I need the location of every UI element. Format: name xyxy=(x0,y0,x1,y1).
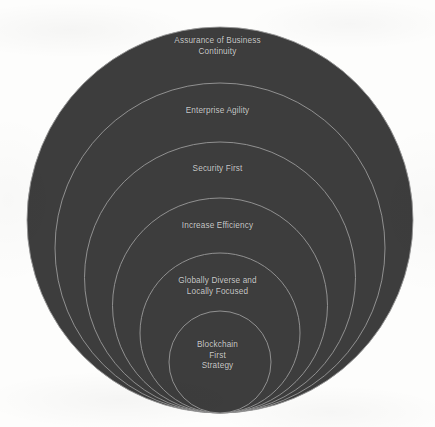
ring-label-line: Increase Efficiency xyxy=(0,221,435,232)
ring-label-increase-efficiency: Increase Efficiency xyxy=(0,221,435,232)
ring-label-enterprise-agility: Enterprise Agility xyxy=(0,106,435,117)
ring-label-line: Locally Focused xyxy=(0,287,435,298)
ring-label-globally-diverse-and-locally-focused: Globally Diverse andLocally Focused xyxy=(0,276,435,297)
ring-label-assurance-of-business-continuity: Assurance of BusinessContinuity xyxy=(0,36,435,57)
ring-label-line: Globally Diverse and xyxy=(0,276,435,287)
ring-label-blockchain-first-strategy: BlockchainFirstStrategy xyxy=(0,340,435,372)
ring-label-line: Strategy xyxy=(0,361,435,372)
ring-label-line: Blockchain xyxy=(0,340,435,351)
ring-label-line: Security First xyxy=(0,164,435,175)
ring-label-line: Continuity xyxy=(0,47,435,58)
ring-label-security-first: Security First xyxy=(0,164,435,175)
ring-label-line: Assurance of Business xyxy=(0,36,435,47)
ring-label-line: First xyxy=(0,351,435,362)
ring-label-line: Enterprise Agility xyxy=(0,106,435,117)
